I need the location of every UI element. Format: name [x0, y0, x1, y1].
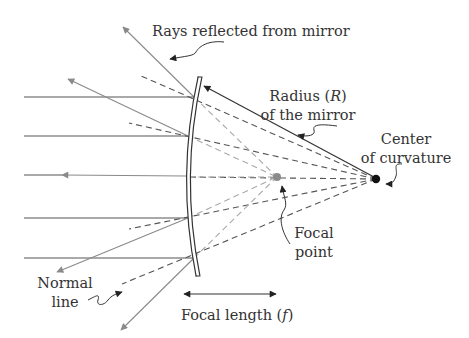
label-radius: Radius (R) — [269, 88, 346, 104]
center-pointer — [386, 164, 402, 184]
normal-line-pointer — [88, 292, 122, 305]
central-reflected-ray — [62, 175, 186, 176]
focal-dash-4 — [188, 177, 277, 218]
label-focal-point: Focal — [294, 225, 334, 241]
normal-line-5 — [122, 179, 376, 284]
concave-mirror-diagram: Rays reflected from mirror Radius (R) of… — [0, 0, 469, 338]
normal-line-2 — [129, 123, 376, 179]
focal-dash-2 — [188, 136, 277, 177]
label-rays-reflected: Rays reflected from mirror — [152, 23, 350, 39]
incident-rays — [24, 97, 194, 258]
label-center: Center — [381, 131, 431, 147]
normal-line-4 — [129, 179, 376, 229]
label-focal-length: Focal length (f) — [181, 307, 293, 323]
rays-reflected-pointer — [170, 42, 224, 59]
reflected-ray-2 — [68, 79, 188, 136]
label-focal-point-line2: point — [295, 244, 333, 260]
radius-pointer — [298, 125, 337, 136]
label-center-line2: of curvature — [361, 150, 452, 166]
focal-point-marker — [273, 173, 281, 181]
label-radius-line2: of the mirror — [261, 107, 356, 123]
reflected-ray-4 — [57, 218, 188, 272]
focal-dash-5 — [194, 177, 277, 258]
center-of-curvature-marker — [372, 175, 380, 183]
label-normal: Normal — [37, 275, 93, 291]
normal-line-3 — [188, 177, 376, 179]
label-normal-line2: line — [51, 294, 78, 310]
label-pointers — [88, 42, 402, 305]
